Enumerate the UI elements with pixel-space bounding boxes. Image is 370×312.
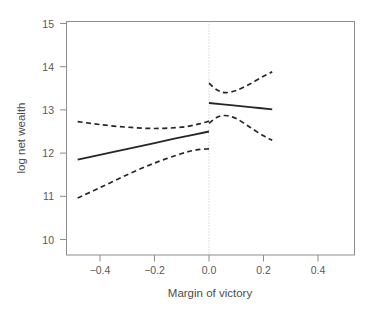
x-axis-ticks <box>100 255 318 262</box>
y-tick-label: 12 <box>42 147 54 159</box>
plot-frame <box>67 22 355 256</box>
y-tick-label: 11 <box>43 190 54 202</box>
x-tick-label: −0.2 <box>144 264 165 276</box>
y-tick-label: 14 <box>42 61 54 73</box>
y-axis-ticks <box>60 24 67 240</box>
ci-upper-left <box>78 121 209 128</box>
ci-upper-right <box>209 72 272 93</box>
chart-figure: 15 14 13 12 11 10 −0.4 −0.2 0.0 0.2 0.4 … <box>0 0 370 312</box>
x-axis-tick-labels: −0.4 −0.2 0.0 0.2 0.4 <box>90 264 326 276</box>
y-axis-tick-labels: 15 14 13 12 11 10 <box>42 18 54 246</box>
y-tick-label: 10 <box>42 234 54 246</box>
ci-lower-right <box>209 115 272 140</box>
x-tick-label: 0.4 <box>311 264 326 276</box>
x-tick-label: −0.4 <box>90 264 111 276</box>
x-axis-label: Margin of victory <box>168 287 253 299</box>
fit-right <box>209 103 272 109</box>
y-tick-label: 15 <box>42 18 54 30</box>
y-tick-label: 13 <box>42 104 54 116</box>
x-tick-label: 0.2 <box>256 264 271 276</box>
fit-left <box>78 132 209 160</box>
y-axis-label: log net wealth <box>15 103 27 174</box>
regression-discontinuity-plot: 15 14 13 12 11 10 −0.4 −0.2 0.0 0.2 0.4 … <box>0 0 370 312</box>
series-layer <box>78 72 273 198</box>
x-tick-label: 0.0 <box>202 264 217 276</box>
